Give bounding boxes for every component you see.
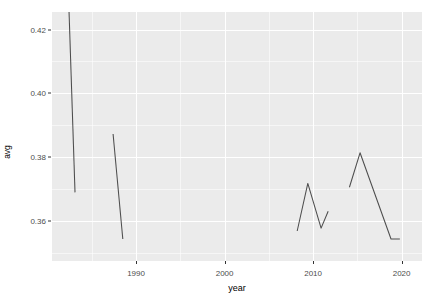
x-tick-label: 1990	[111, 269, 161, 278]
x-tick-mark	[402, 261, 403, 264]
x-axis-title: year	[52, 283, 422, 293]
x-tick-label: 2010	[288, 269, 338, 278]
x-axis-ticks: 1990200020102020	[0, 0, 435, 304]
x-tick-mark	[225, 261, 226, 264]
x-tick-mark	[313, 261, 314, 264]
x-tick-mark	[136, 261, 137, 264]
x-tick-label: 2020	[377, 269, 427, 278]
x-tick-label: 2000	[200, 269, 250, 278]
chart-container: avg 0.360.380.400.42 1990200020102020 ye…	[0, 0, 435, 304]
